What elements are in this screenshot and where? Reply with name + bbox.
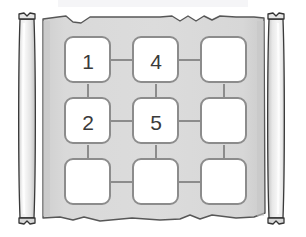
node-box[interactable] [65,159,110,204]
node-r3c3[interactable] [201,159,246,204]
node-label: 1 [82,50,94,73]
node-label: 4 [150,50,162,73]
node-r3c1[interactable] [65,159,110,204]
node-grid: 1 4 2 5 [0,0,306,237]
node-box[interactable] [133,159,178,204]
node-r2c3[interactable] [201,98,246,143]
node-box[interactable] [201,37,246,82]
node-r1c3[interactable] [201,37,246,82]
node-label: 5 [150,111,162,134]
node-box[interactable] [201,159,246,204]
node-r1c1[interactable]: 1 [65,37,110,82]
node-box[interactable] [201,98,246,143]
node-r2c2[interactable]: 5 [133,98,178,143]
node-label: 2 [82,111,94,134]
diagram-canvas: 1 4 2 5 [0,0,306,237]
node-r1c2[interactable]: 4 [133,37,178,82]
node-r2c1[interactable]: 2 [65,98,110,143]
node-r3c2[interactable] [133,159,178,204]
